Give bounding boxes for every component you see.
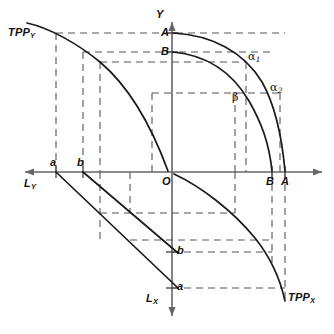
horizontal-axis-left-arrow	[25, 168, 34, 175]
alpha-2-label: α2	[270, 82, 283, 93]
beta-label: β	[232, 92, 239, 103]
y-axis-label: Y	[156, 9, 164, 20]
tpp-x-curve	[174, 174, 285, 301]
economics-four-quadrant-diagram: TPPY TPPX Y O LY LX A B B A a b b a α1 α…	[0, 0, 334, 334]
tick-marks	[56, 33, 285, 288]
lx-axis-label: LX	[146, 293, 158, 304]
y-lower-tick-label-a: a	[177, 281, 183, 292]
labour-constraint-line-a	[56, 172, 178, 288]
horizontal-axis-right-arrow	[313, 168, 322, 175]
tpp-y-label: TPPY	[8, 27, 35, 38]
axis-group	[25, 22, 322, 316]
tpp-y-curve	[27, 23, 168, 171]
x-tick-label-a: a	[50, 157, 56, 168]
origin-label: O	[162, 176, 171, 187]
projection-lines	[56, 33, 285, 300]
alpha-1-label: α1	[248, 51, 261, 62]
vertical-axis-top-arrow	[168, 22, 175, 31]
y-lower-tick-label-b: b	[177, 245, 184, 256]
y-tick-label-A: A	[161, 27, 169, 38]
x-tick-label-B: B	[266, 176, 274, 187]
x-tick-label-b: b	[77, 157, 84, 168]
vertical-axis-bottom-arrow	[168, 307, 175, 316]
ppf-inner-curve-B	[173, 52, 272, 171]
x-tick-label-A: A	[281, 176, 289, 187]
ly-axis-label: LY	[24, 178, 36, 189]
tpp-x-label: TPPX	[288, 292, 315, 303]
y-tick-label-B: B	[161, 46, 169, 57]
